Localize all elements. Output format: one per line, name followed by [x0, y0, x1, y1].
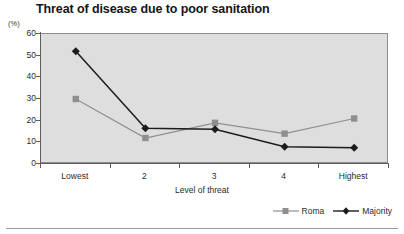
data-point-roma: [73, 96, 79, 102]
chart-title: Threat of disease due to poor sanitation: [36, 2, 270, 16]
data-point-majority: [350, 144, 358, 152]
chart-figure: Threat of disease due to poor sanitation…: [0, 0, 404, 234]
x-axis-tick: [40, 163, 41, 168]
y-axis-tick-label: 60: [10, 28, 36, 38]
x-axis-tick: [179, 163, 180, 168]
y-axis-tick: [36, 33, 40, 34]
y-axis-tick-label: 30: [10, 93, 36, 103]
x-axis-tick: [318, 163, 319, 168]
x-axis-tick-label: Lowest: [61, 171, 88, 181]
y-axis-tick-label: 20: [10, 115, 36, 125]
x-axis-title: Level of threat: [0, 185, 404, 195]
y-axis-unit-label: (%): [8, 19, 20, 28]
x-axis-tick-label: 3: [212, 171, 217, 181]
x-axis-tick-label: 2: [142, 171, 147, 181]
y-axis-tick: [36, 76, 40, 77]
x-axis-line: [40, 163, 389, 164]
legend-line-square-icon: [273, 206, 299, 216]
data-point-roma: [351, 115, 357, 121]
y-axis-tick: [36, 120, 40, 121]
y-axis-tick-label: 0: [10, 158, 36, 168]
chart-legend: Roma Majority: [273, 206, 392, 216]
legend-label-roma: Roma: [302, 207, 325, 216]
legend-item-majority[interactable]: Majority: [333, 206, 392, 216]
legend-label-majority: Majority: [362, 207, 392, 216]
data-point-roma: [281, 130, 287, 136]
x-axis-tick: [388, 163, 389, 168]
y-axis-tick: [36, 55, 40, 56]
y-axis-tick-label: 10: [10, 136, 36, 146]
x-axis-tick: [110, 163, 111, 168]
series-canvas: [41, 34, 389, 164]
x-axis-tick: [249, 163, 250, 168]
data-point-majority: [281, 143, 289, 151]
plot-area: [40, 33, 388, 163]
y-axis-line: [40, 32, 41, 164]
y-axis-tick-label: 40: [10, 71, 36, 81]
y-axis-tick-label: 50: [10, 50, 36, 60]
bottom-divider: [6, 228, 398, 229]
y-axis-tick: [36, 98, 40, 99]
y-axis-tick: [36, 141, 40, 142]
x-axis-tick-label: Highest: [339, 171, 368, 181]
legend-line-diamond-icon: [333, 206, 359, 216]
data-point-roma: [142, 135, 148, 141]
data-point-majority: [211, 125, 219, 133]
data-point-roma: [212, 120, 218, 126]
x-axis-tick-label: 4: [281, 171, 286, 181]
legend-item-roma[interactable]: Roma: [273, 206, 325, 216]
